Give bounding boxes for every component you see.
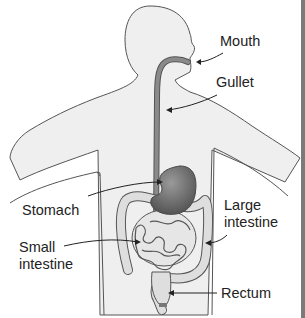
label-small-intestine-line1: Small — [19, 239, 55, 255]
label-stomach: Stomach — [22, 202, 79, 218]
label-mouth: Mouth — [220, 33, 260, 49]
label-gullet: Gullet — [216, 74, 254, 90]
label-large-intestine-line1: Large — [224, 197, 261, 213]
frame-border — [301, 0, 305, 318]
label-rectum: Rectum — [221, 285, 271, 301]
digestive-system-diagram: Mouth Gullet Stomach Large intestine Sma… — [0, 0, 305, 318]
mouth-arrow — [198, 53, 223, 62]
mouth-arrowhead-icon — [196, 59, 201, 65]
label-large-intestine-line2: intestine — [224, 214, 278, 230]
label-small-intestine-line2: intestine — [19, 256, 73, 272]
